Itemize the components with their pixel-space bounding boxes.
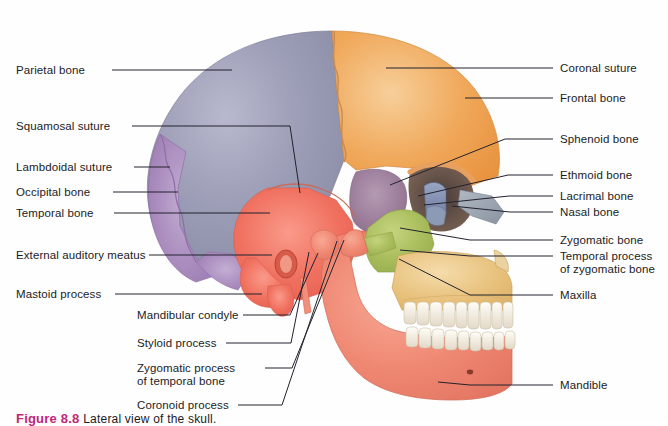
upper-teeth-row <box>404 302 513 329</box>
lower-teeth-row <box>406 327 515 351</box>
label-sphenoid-bone: Sphenoid bone <box>560 133 639 146</box>
label-squamosal-suture: Squamosal suture <box>16 120 110 133</box>
mastoid-process-shape <box>268 284 295 316</box>
label-nasal-bone: Nasal bone <box>560 206 619 219</box>
figure-caption-text: Lateral view of the skull. <box>83 412 216 426</box>
figure-caption: Figure 8.8 Lateral view of the skull. <box>16 411 217 426</box>
label-lacrimal-bone: Lacrimal bone <box>560 190 634 203</box>
frontal-bone-shape <box>332 31 500 186</box>
external-auditory-meatus-opening <box>280 255 292 273</box>
label-mandibular-condyle: Mandibular condyle <box>137 309 239 322</box>
label-temporal-process-zygomatic: Temporal process of zygomatic bone <box>560 250 655 276</box>
label-occipital-bone: Occipital bone <box>16 186 90 199</box>
label-mandible: Mandible <box>560 379 607 392</box>
label-temporal-bone: Temporal bone <box>16 207 93 220</box>
maxilla-shape <box>392 252 512 311</box>
figure-number: Figure 8.8 <box>16 411 79 426</box>
label-frontal-bone: Frontal bone <box>560 92 626 105</box>
label-styloid-process: Styloid process <box>137 337 216 350</box>
label-mastoid-process: Mastoid process <box>16 288 101 301</box>
label-external-auditory-meatus: External auditory meatus <box>16 249 146 262</box>
label-parietal-bone: Parietal bone <box>16 64 85 77</box>
label-lambdoidal-suture: Lambdoidal suture <box>16 161 112 174</box>
mental-foramen <box>467 370 473 375</box>
label-maxilla: Maxilla <box>560 289 597 302</box>
label-zygomatic-process-temporal: Zygomatic process of temporal bone <box>137 362 235 388</box>
label-ethmoid-bone: Ethmoid bone <box>560 169 632 182</box>
label-zygomatic-bone: Zygomatic bone <box>560 234 643 247</box>
lacrimal-bone-shape <box>426 206 446 226</box>
label-coronal-suture: Coronal suture <box>560 62 637 75</box>
